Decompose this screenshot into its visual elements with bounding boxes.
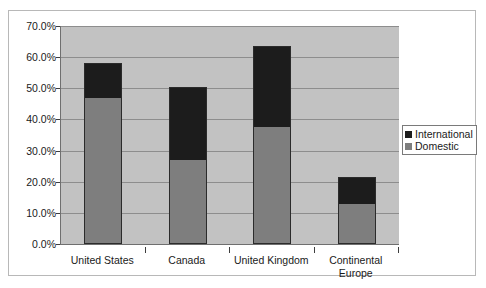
legend-swatch-icon [405, 143, 412, 150]
bar-segment-domestic[interactable] [254, 127, 290, 243]
x-axis-category-label: United States [60, 254, 145, 267]
stacked-bar[interactable] [338, 177, 376, 244]
plot-area [60, 26, 399, 245]
x-axis-tick-mark [398, 247, 399, 253]
bar-group [61, 26, 146, 244]
bar-group [230, 26, 315, 244]
stacked-bar[interactable] [84, 63, 122, 244]
y-axis-tick-marks [9, 26, 64, 245]
x-axis-tick-mark [314, 247, 315, 253]
bar-segment-domestic[interactable] [170, 160, 206, 243]
bar-segment-international[interactable] [254, 47, 290, 127]
bar-segment-international[interactable] [85, 64, 121, 98]
x-axis: United StatesCanadaUnited KingdomContine… [60, 247, 399, 277]
bar-group [315, 26, 400, 244]
x-axis-category-label: Continental Europe [314, 254, 399, 279]
x-axis-category-label: Canada [145, 254, 230, 267]
bar-segment-domestic[interactable] [339, 204, 375, 243]
bar-group [146, 26, 231, 244]
legend-item[interactable]: International [405, 128, 473, 140]
bar-segment-international[interactable] [170, 88, 206, 160]
bar-segment-domestic[interactable] [85, 98, 121, 243]
x-axis-tick-mark [145, 247, 146, 253]
legend-swatch-icon [405, 131, 412, 138]
chart-legend: InternationalDomestic [402, 125, 477, 155]
legend-label: Domestic [415, 140, 459, 152]
stacked-bar[interactable] [253, 46, 291, 244]
x-axis-category-label: United Kingdom [229, 254, 314, 267]
bar-segment-international[interactable] [339, 178, 375, 204]
stacked-bar[interactable] [169, 87, 207, 244]
legend-label: International [415, 128, 473, 140]
x-axis-tick-mark [229, 247, 230, 253]
legend-item[interactable]: Domestic [405, 140, 473, 152]
chart-container: 0.0%10.0%20.0%30.0%40.0%50.0%60.0%70.0% … [8, 10, 476, 276]
